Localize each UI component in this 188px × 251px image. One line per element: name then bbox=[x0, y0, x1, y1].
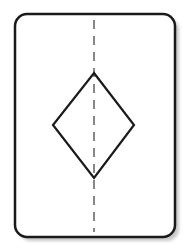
diagram-canvas bbox=[0, 0, 188, 251]
card-diagram bbox=[0, 0, 188, 251]
card-outline bbox=[15, 14, 175, 237]
